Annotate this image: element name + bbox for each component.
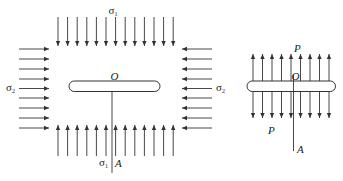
downward-p-arrows: [253, 91, 329, 118]
left-sigma2-arrows: [19, 49, 49, 128]
left-crack-tip-a-label: A: [114, 157, 122, 169]
right-crack-tip-a-label: A: [296, 143, 304, 155]
diagram-canvas: σ1 σ2 σ2 O σ1 A: [0, 0, 343, 181]
crack-slot: [69, 81, 160, 92]
right-center-o-label: O: [292, 70, 300, 82]
bottom-sigma1-arrows: [58, 125, 173, 156]
top-sigma1-label: σ1: [109, 4, 118, 17]
top-p-label: P: [293, 42, 301, 54]
left-panel: σ1 σ2 σ2 O σ1 A: [6, 4, 225, 173]
bottom-sigma1-label: σ1: [99, 156, 108, 169]
right-sigma2-label: σ2: [216, 81, 225, 94]
right-sigma2-arrows: [182, 49, 212, 128]
pressurized-crack-slot: [247, 81, 336, 92]
left-sigma2-label: σ2: [6, 81, 15, 94]
bottom-p-label: P: [267, 124, 275, 136]
left-center-o-label: O: [111, 70, 119, 82]
top-sigma1-arrows: [58, 17, 173, 46]
right-panel: P O P A: [247, 42, 336, 155]
